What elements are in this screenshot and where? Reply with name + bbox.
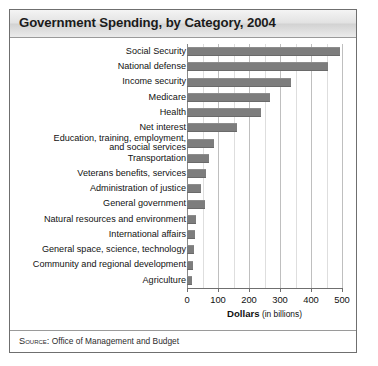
bar bbox=[187, 261, 193, 270]
tick-label-500: 500 bbox=[327, 294, 357, 305]
category-label: General government bbox=[10, 199, 186, 209]
bar bbox=[187, 200, 205, 209]
category-label: Income security bbox=[10, 77, 186, 87]
tick-label-200: 200 bbox=[234, 294, 264, 305]
category-label: Administration of justice bbox=[10, 184, 186, 194]
category-label: Education, training, employment, and soc… bbox=[10, 134, 186, 153]
screenshot-canvas: Government Spending, by Category, 2004 S… bbox=[0, 0, 378, 366]
tick-mark-300 bbox=[280, 288, 281, 292]
tick-mark-400 bbox=[311, 288, 312, 292]
bar bbox=[187, 139, 214, 148]
bar bbox=[187, 230, 195, 239]
category-label: Health bbox=[10, 108, 186, 118]
bars-and-gridlines bbox=[187, 44, 342, 288]
bar bbox=[187, 62, 328, 71]
bar bbox=[187, 93, 270, 102]
chart-figure: Government Spending, by Category, 2004 S… bbox=[9, 9, 357, 353]
category-axis-labels: Social SecurityNational defenseIncome se… bbox=[10, 44, 186, 288]
source-note-label: Source: bbox=[19, 336, 49, 346]
category-label: General space, science, technology bbox=[10, 245, 186, 255]
tick-mark-500 bbox=[342, 288, 343, 292]
chart-title: Government Spending, by Category, 2004 bbox=[19, 15, 276, 30]
category-label: Transportation bbox=[10, 154, 186, 164]
gridline-400 bbox=[311, 44, 312, 288]
tick-label-100: 100 bbox=[203, 294, 233, 305]
value-axis-title-unit: (in billions) bbox=[260, 309, 302, 319]
source-band: Source: Office of Management and Budget bbox=[10, 330, 356, 352]
tick-mark-200 bbox=[249, 288, 250, 292]
tick-mark-0 bbox=[187, 288, 188, 292]
bar bbox=[187, 123, 237, 132]
bar bbox=[187, 184, 201, 193]
category-label: Net interest bbox=[10, 123, 186, 133]
bar bbox=[187, 47, 340, 56]
chart-plot-area: Social SecurityNational defenseIncome se… bbox=[10, 38, 358, 332]
tick-label-300: 300 bbox=[265, 294, 295, 305]
category-label: Veterans benefits, services bbox=[10, 169, 186, 179]
category-label: Social Security bbox=[10, 47, 186, 57]
source-note-text: Office of Management and Budget bbox=[49, 336, 179, 346]
category-label: Agriculture bbox=[10, 276, 186, 286]
source-note: Source: Office of Management and Budget bbox=[19, 336, 179, 346]
bar bbox=[187, 245, 194, 254]
bar bbox=[187, 108, 261, 117]
value-axis-title: Dollars (in billions) bbox=[187, 308, 342, 319]
chart-title-band: Government Spending, by Category, 2004 bbox=[10, 10, 356, 38]
gridline-500 bbox=[342, 44, 343, 288]
bar bbox=[187, 215, 196, 224]
category-label: Community and regional development bbox=[10, 260, 186, 270]
category-label: Medicare bbox=[10, 93, 186, 103]
tick-label-0: 0 bbox=[172, 294, 202, 305]
bar bbox=[187, 169, 206, 178]
tick-label-400: 400 bbox=[296, 294, 326, 305]
bar bbox=[187, 276, 192, 285]
category-label: Natural resources and environment bbox=[10, 215, 186, 225]
bar bbox=[187, 154, 209, 163]
value-axis-title-main: Dollars bbox=[227, 308, 260, 319]
category-label: International affairs bbox=[10, 230, 186, 240]
gridline-450 bbox=[327, 44, 328, 288]
category-label: National defense bbox=[10, 62, 186, 72]
gridline-350 bbox=[296, 44, 297, 288]
value-axis-line bbox=[187, 288, 342, 289]
bar bbox=[187, 78, 291, 87]
tick-mark-100 bbox=[218, 288, 219, 292]
